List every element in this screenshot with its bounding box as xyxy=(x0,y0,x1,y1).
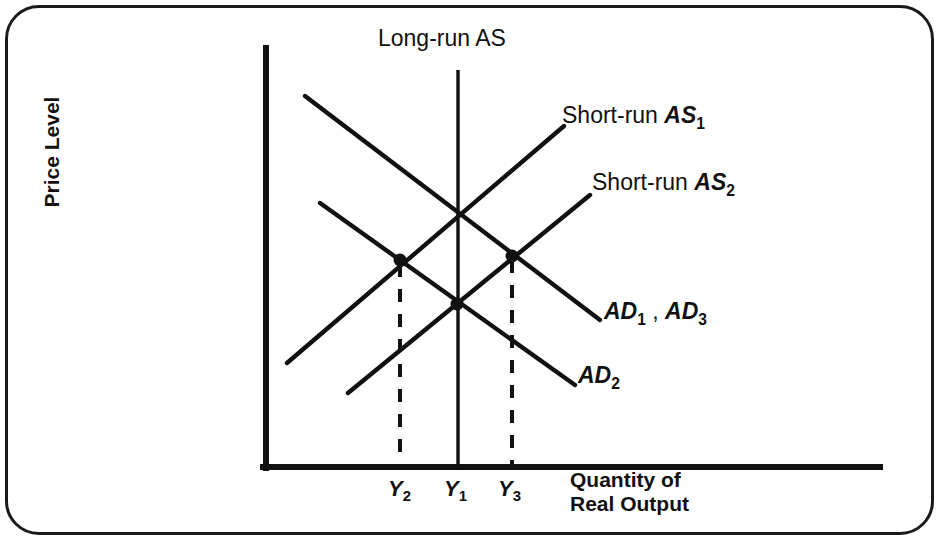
x-axis-title-line2: Real Output xyxy=(570,492,689,516)
x-tick-y3-subscript: 3 xyxy=(513,487,521,504)
short-run-as1-prefix: Short-run xyxy=(562,102,664,128)
short-run-as2-symbol: AS2 xyxy=(694,169,735,195)
ad2-base: AD xyxy=(578,362,611,388)
y-axis-title: Price Level xyxy=(40,72,64,232)
x-tick-label-y2: Y2 xyxy=(388,477,411,505)
short-run-as2-prefix: Short-run xyxy=(592,169,694,195)
short-run-as2-label: Short-run AS2 xyxy=(592,170,735,199)
ad2-curve xyxy=(320,203,575,385)
x-tick-y1-subscript: 1 xyxy=(459,487,467,504)
short-run-as1-subscript: 1 xyxy=(696,115,705,132)
equilibrium-dot-y2 xyxy=(394,254,407,267)
short-run-as1-base: AS xyxy=(664,102,696,128)
x-tick-y3-base: Y xyxy=(498,476,513,501)
ad3-subscript: 3 xyxy=(698,311,707,328)
ad2-label: AD2 xyxy=(578,363,620,392)
short-run-as1-symbol: AS1 xyxy=(664,102,705,128)
short-run-as2-subscript: 2 xyxy=(726,182,735,199)
equilibrium-dot-y1 xyxy=(451,298,464,311)
x-tick-label-y1: Y1 xyxy=(444,477,467,505)
ad1-ad3-curve xyxy=(305,96,600,320)
short-run-as1-label: Short-run AS1 xyxy=(562,103,705,132)
diagram-svg xyxy=(0,0,945,546)
x-tick-y2-base: Y xyxy=(388,476,403,501)
ad1-symbol: AD1 xyxy=(604,298,646,324)
ad2-subscript: 2 xyxy=(611,375,620,392)
ad-label-separator: , xyxy=(646,298,665,324)
ad3-symbol: AD3 xyxy=(665,298,707,324)
ad1-subscript: 1 xyxy=(637,311,646,328)
x-tick-y1-base: Y xyxy=(444,476,459,501)
x-axis-title: Quantity ofReal Output xyxy=(570,468,689,516)
x-tick-label-y3: Y3 xyxy=(498,477,521,505)
x-axis-title-line1: Quantity of xyxy=(570,468,689,492)
ad3-base: AD xyxy=(665,298,698,324)
short-run-as2-curve xyxy=(348,195,590,393)
figure-canvas: Long-run AS Short-run AS1 Short-run AS2 … xyxy=(0,0,945,546)
ad1-ad3-label: AD1 , AD3 xyxy=(604,299,707,328)
ad1-base: AD xyxy=(604,298,637,324)
ad2-symbol: AD2 xyxy=(578,362,620,388)
long-run-as-label: Long-run AS xyxy=(378,26,506,52)
x-tick-y2-subscript: 2 xyxy=(403,487,411,504)
short-run-as2-base: AS xyxy=(694,169,726,195)
equilibrium-dot-y3 xyxy=(506,250,519,263)
